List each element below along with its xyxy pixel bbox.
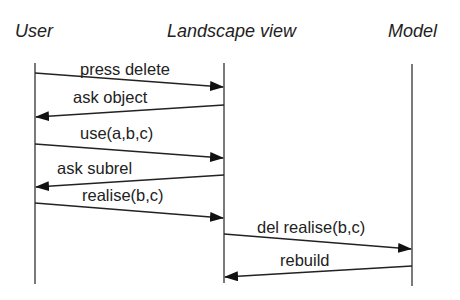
sequence-diagram: User Landscape view Model press delete a…	[0, 0, 460, 300]
actor-landscape-view: Landscape view	[167, 21, 296, 42]
message-label-ask-object: ask object	[73, 88, 147, 107]
message-label-del-realise: del realise(b,c)	[257, 218, 365, 237]
diagram-lines	[0, 0, 460, 300]
message-label-press-delete: press delete	[80, 60, 170, 79]
actor-model: Model	[388, 21, 437, 42]
arrow-realise	[35, 203, 223, 218]
arrow-use	[35, 144, 223, 158]
actor-user: User	[15, 21, 53, 42]
message-label-realise: realise(b,c)	[82, 186, 164, 205]
message-label-use: use(a,b,c)	[80, 124, 153, 143]
message-label-rebuild: rebuild	[280, 251, 330, 270]
message-label-ask-subrel: ask subrel	[57, 159, 132, 178]
